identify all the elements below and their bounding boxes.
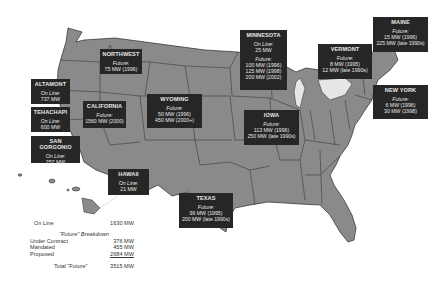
region-box-iowa: IOWA Future: 113 MW (1996) 250 MW (late … [244,110,299,145]
region-box-new-york: NEW YORK Future: 6 MW (1996) 30 MW (1998… [373,85,428,119]
region-box-tehachapi: TEHACHAPI On Line: 600 MW [31,107,70,132]
online-row: On Line 1630 MW [34,220,134,226]
region-box-wyoming: WYOMING Future: 50 MW (1996) 450 MW (200… [147,94,202,128]
capacity-summary: On Line 1630 MW "Future" Breakdown Under… [34,220,134,269]
region-box-altamont: ALTAMONT On Line: 737 MW [31,79,70,104]
region-box-hawaii: HAWAII On Line: 21 MW [108,169,149,195]
region-box-maine: MAINE Future: 15 MW (1996) 225 MW (late … [373,17,428,52]
region-box-texas: TEXAS Future: 96 MW (1995) 200 MW (late … [179,193,233,228]
region-box-minnesota: MINNESOTA On Line: 25 MW Future: 100 MW … [240,30,287,90]
total-future-row: Total "Future" 3515 MW [34,263,134,269]
hawaii-connector-line [100,196,118,208]
proposed-row: Proposed 2684 MW [30,251,134,257]
region-box-northwest: NORTHWEST Future: 75 MW (1996) [100,49,142,74]
region-box-vermont: VERMONT Future: 8 MW (1995) 12 MW (late … [318,44,372,79]
region-box-san-gorgonio: SAN GORGONIO On Line: 257 MW [31,136,80,163]
region-name: NORTHWEST [102,51,140,57]
region-box-california: CALIFORNIA Future: 1560 MW (2000) [83,101,126,128]
hawaii-islands [18,174,100,214]
